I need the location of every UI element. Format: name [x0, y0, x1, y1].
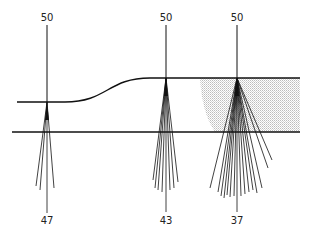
top-label: 50: [41, 12, 54, 23]
ray-fan-station-2: 5043: [153, 12, 178, 226]
bottom-label: 47: [41, 215, 54, 226]
ray-fan-station-1: 5047: [36, 12, 54, 226]
ray-diagram: 504750435037: [0, 0, 312, 237]
shaded-region: [200, 78, 300, 132]
bottom-label: 37: [231, 215, 244, 226]
top-label: 50: [231, 12, 244, 23]
top-label: 50: [160, 12, 173, 23]
bottom-label: 43: [160, 215, 173, 226]
